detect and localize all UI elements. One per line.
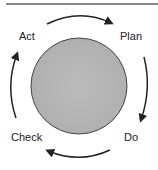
- center-circle: [31, 38, 127, 134]
- stage-label-plan: Plan: [120, 31, 142, 42]
- stage-label-check: Check: [11, 132, 42, 143]
- arrow-do-to-check: [48, 150, 110, 157]
- stage-label-do: Do: [124, 132, 138, 143]
- stage-label-act: Act: [19, 31, 35, 42]
- arrow-check-to-act: [11, 54, 17, 118]
- arrow-act-to-plan: [47, 16, 111, 24]
- arrow-plan-to-do: [141, 57, 147, 120]
- pdca-cycle-diagram: [0, 0, 158, 170]
